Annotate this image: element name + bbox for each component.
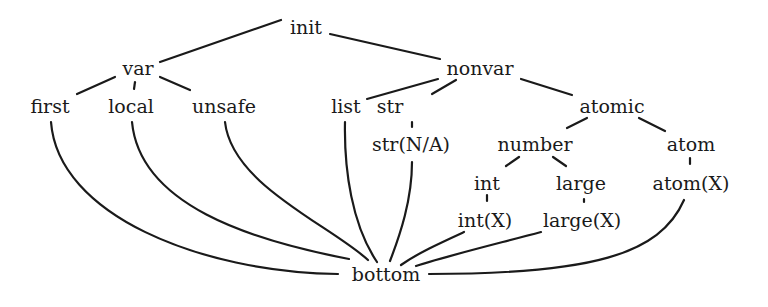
node-number: number bbox=[498, 133, 574, 155]
lattice-canvas: init var nonvar first local unsafe list … bbox=[0, 0, 768, 307]
edge-atomic-number bbox=[567, 118, 587, 128]
node-str: str bbox=[377, 95, 404, 117]
type-lattice-diagram: init var nonvar first local unsafe list … bbox=[0, 0, 768, 307]
edge-largex-bottom bbox=[416, 232, 541, 266]
edge-strna-bottom bbox=[390, 162, 412, 261]
edge-number-int bbox=[506, 157, 519, 166]
node-large-x: large(X) bbox=[543, 209, 621, 231]
node-first: first bbox=[30, 95, 70, 117]
edge-first-bottom bbox=[51, 122, 338, 274]
edge-var-local bbox=[134, 82, 135, 89]
node-large: large bbox=[556, 172, 606, 194]
node-int: int bbox=[474, 172, 500, 194]
edge-unsafe-bottom bbox=[225, 122, 368, 260]
node-atom: atom bbox=[667, 133, 715, 155]
node-int-x: int(X) bbox=[458, 209, 512, 231]
edge-nonvar-atomic bbox=[521, 79, 572, 95]
node-list: list bbox=[331, 95, 361, 117]
node-nonvar: nonvar bbox=[446, 57, 514, 79]
node-bottom: bottom bbox=[352, 263, 420, 285]
nodes: init var nonvar first local unsafe list … bbox=[30, 16, 729, 285]
node-init: init bbox=[290, 16, 322, 38]
node-unsafe: unsafe bbox=[192, 95, 256, 117]
edge-var-first bbox=[77, 77, 115, 94]
edge-atomic-atom bbox=[639, 118, 665, 131]
edge-var-unsafe bbox=[160, 77, 190, 90]
node-atomic: atomic bbox=[579, 95, 644, 117]
node-str-na: str(N/A) bbox=[372, 133, 450, 155]
edge-number-large bbox=[553, 157, 566, 166]
node-local: local bbox=[108, 95, 154, 117]
node-atom-x: atom(X) bbox=[653, 172, 730, 194]
edge-nonvar-str bbox=[432, 80, 456, 94]
edge-local-bottom bbox=[132, 122, 349, 259]
edge-init-nonvar bbox=[330, 34, 440, 59]
node-var: var bbox=[121, 57, 154, 79]
edge-init-var bbox=[160, 20, 281, 62]
